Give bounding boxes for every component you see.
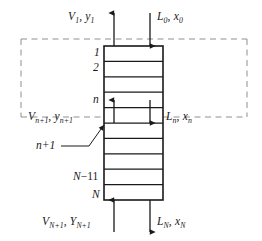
stage-label-N-minus-1-letter: N — [73, 170, 81, 182]
label-mid-vapor: Vn+1, yn+1 — [28, 111, 73, 123]
label-bottom-liquid-out-L-sub: N — [164, 221, 169, 230]
label-top-liquid-in: L0, x0 — [157, 11, 183, 23]
stage-label-N-minus-1-one: 1 — [92, 170, 98, 182]
label-bottom-liquid-out: LN, xN — [157, 216, 186, 228]
label-mid-liquid-x-sub: n — [188, 116, 192, 125]
label-top-liquid-in-L-sub: 0 — [164, 16, 168, 25]
label-bottom-vapor-in-Y-sub: N+1 — [76, 221, 90, 230]
stream-arrows-top — [114, 13, 150, 46]
label-top-liquid-in-L: L — [157, 10, 164, 22]
stage-label-N-minus-1-suffix: −1 — [81, 170, 93, 182]
stage-label-N-text: N — [92, 188, 100, 200]
stage-label-1-text: 1 — [94, 46, 100, 58]
stream-arrows-bottom — [114, 200, 150, 232]
label-mid-liquid-L: L — [166, 110, 173, 122]
stage-label-N: N — [92, 189, 100, 201]
label-top-liquid-in-x-sub: 0 — [179, 16, 183, 25]
stage-label-n-plus-1-text: n+1 — [36, 139, 55, 151]
n-plus-1-leader-line — [61, 126, 104, 147]
stage-label-n-text: n — [93, 93, 99, 105]
stage-label-n: n — [93, 94, 99, 106]
label-bottom-vapor-in-V-sub: N+1 — [49, 221, 63, 230]
stage-label-2-text: 2 — [93, 61, 99, 73]
label-top-vapor-out-y: y — [85, 10, 90, 22]
label-mid-vapor-y-sub: n+1 — [60, 116, 73, 125]
stage-label-1: 1 — [94, 47, 100, 59]
label-bottom-liquid-out-L: L — [157, 215, 164, 227]
stage-label-2: 2 — [93, 62, 99, 74]
label-mid-liquid: Ln, xn — [166, 111, 192, 123]
label-mid-liquid-L-sub: n — [173, 116, 177, 125]
label-top-vapor-out: V1, y1 — [68, 11, 95, 23]
label-mid-vapor-y: y — [54, 110, 59, 122]
stage-label-N-minus-1: N−11 — [73, 171, 98, 183]
label-top-vapor-out-V-sub: 1 — [75, 16, 79, 25]
label-mid-vapor-V-sub: n+1 — [35, 116, 48, 125]
label-bottom-liquid-out-x-sub: N — [180, 221, 185, 230]
label-bottom-vapor-in: VN+1, YN+1 — [42, 216, 91, 228]
label-top-vapor-out-y-sub: 1 — [91, 16, 95, 25]
stage-label-n-plus-1-callout: n+1 — [36, 140, 55, 152]
column-diagram-figure: V1, y1 L0, x0 Vn+1, yn+1 Ln, xn VN+1, YN… — [0, 0, 262, 241]
